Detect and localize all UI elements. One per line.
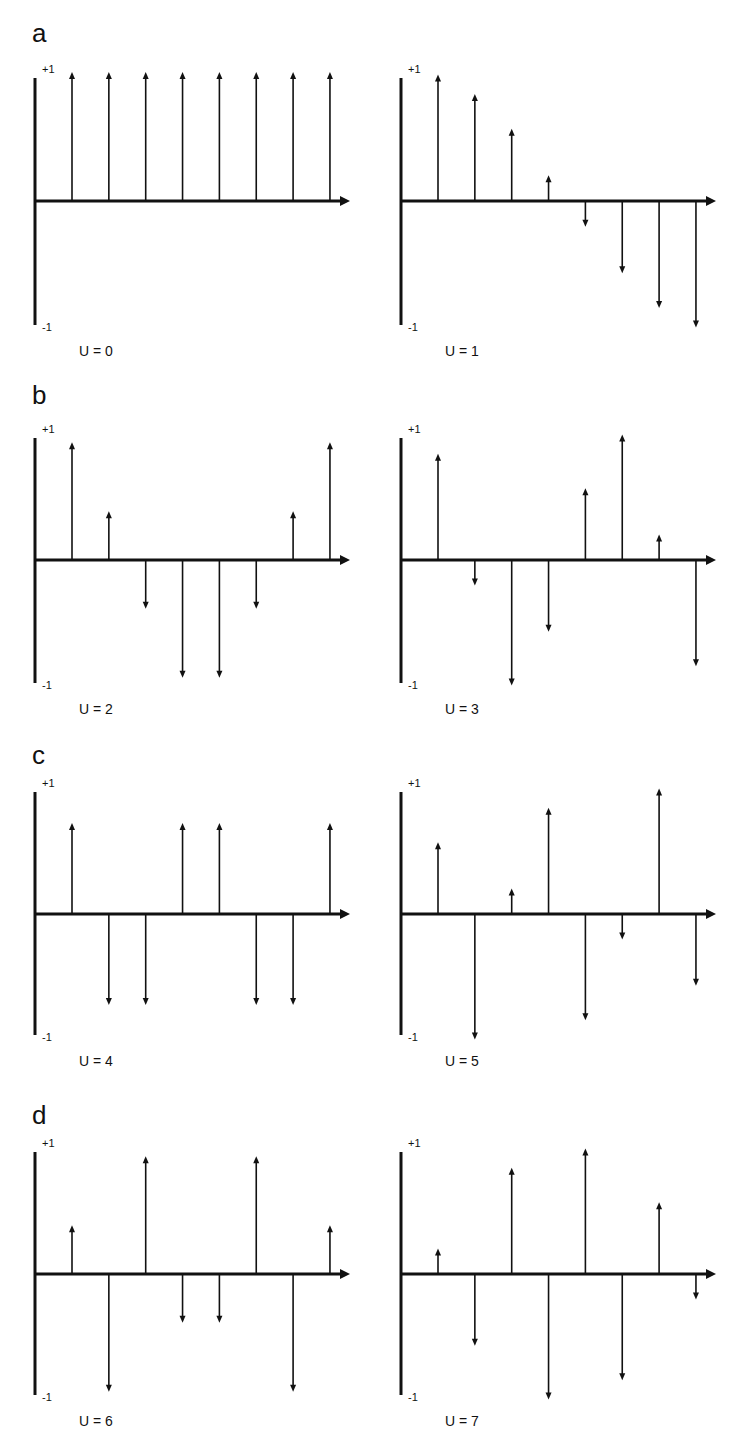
arrow-up-icon xyxy=(143,1156,149,1163)
stem-plot-a-right: +1-1U = 1 xyxy=(370,0,740,360)
stem-plot-d-left: +1-1U = 6 xyxy=(0,1080,370,1440)
arrow-down-icon xyxy=(106,1385,112,1392)
arrow-up-icon xyxy=(327,1225,333,1232)
stem-arrow xyxy=(582,914,588,1020)
y-max-label: +1 xyxy=(408,423,421,435)
stem-arrow xyxy=(582,488,588,560)
stem-arrow xyxy=(290,914,296,1005)
arrow-up-icon xyxy=(180,823,186,830)
figure-row-a: a+1-1U = 0+1-1U = 1 xyxy=(0,0,740,360)
arrow-down-icon xyxy=(472,579,478,586)
arrow-down-icon xyxy=(253,602,259,609)
stem-arrow xyxy=(619,435,625,560)
figure-row-c: c+1-1U = 4+1-1U = 5 xyxy=(0,720,740,1080)
plot-canvas xyxy=(0,720,370,1080)
stem-arrow xyxy=(472,1274,478,1346)
arrow-down-icon xyxy=(693,659,699,666)
y-max-label: +1 xyxy=(42,423,55,435)
arrow-up-icon xyxy=(69,442,75,449)
stem-arrow xyxy=(69,823,75,914)
y-min-label: -1 xyxy=(42,321,52,333)
plot-canvas xyxy=(0,0,370,360)
arrow-down-icon xyxy=(180,1316,186,1323)
stem-arrow xyxy=(546,1274,552,1399)
arrow-down-icon xyxy=(216,671,222,678)
y-min-label: -1 xyxy=(42,679,52,691)
stem-arrow xyxy=(253,560,259,609)
stem-arrow xyxy=(693,1274,699,1300)
arrow-down-icon xyxy=(290,998,296,1005)
arrow-down-icon xyxy=(619,266,625,273)
arrow-up-icon xyxy=(69,823,75,830)
x-axis-arrow-icon xyxy=(340,1269,350,1279)
arrow-up-icon xyxy=(69,1225,75,1232)
y-max-label: +1 xyxy=(42,63,55,75)
x-axis-arrow-icon xyxy=(706,196,716,206)
stem-arrow xyxy=(216,1274,222,1323)
arrow-down-icon xyxy=(693,1293,699,1300)
x-axis-arrow-icon xyxy=(706,909,716,919)
plot-canvas xyxy=(370,720,740,1080)
stem-plot-c-right: +1-1U = 5 xyxy=(370,720,740,1080)
stem-arrow xyxy=(509,1168,515,1274)
arrow-up-icon xyxy=(143,72,149,79)
arrow-down-icon xyxy=(619,1373,625,1380)
x-axis-arrow-icon xyxy=(340,196,350,206)
arrow-down-icon xyxy=(619,933,625,940)
arrow-up-icon xyxy=(435,454,441,461)
arrow-down-icon xyxy=(143,998,149,1005)
arrow-down-icon xyxy=(582,1013,588,1020)
arrow-down-icon xyxy=(582,220,588,227)
plot-canvas xyxy=(370,0,740,360)
y-max-label: +1 xyxy=(42,1137,55,1149)
stem-arrow xyxy=(546,175,552,201)
arrow-up-icon xyxy=(216,72,222,79)
arrow-up-icon xyxy=(180,72,186,79)
y-min-label: -1 xyxy=(42,1391,52,1403)
arrow-down-icon xyxy=(143,602,149,609)
stem-arrow xyxy=(290,1274,296,1392)
arrow-down-icon xyxy=(290,1385,296,1392)
stem-arrow xyxy=(327,442,333,560)
u-index-label: U = 1 xyxy=(445,343,479,359)
arrow-up-icon xyxy=(216,823,222,830)
stem-arrow xyxy=(472,560,478,586)
y-min-label: -1 xyxy=(408,1391,418,1403)
stem-arrow xyxy=(180,72,186,201)
arrow-up-icon xyxy=(656,534,662,541)
stem-arrow xyxy=(472,914,478,1039)
stem-arrow xyxy=(619,201,625,273)
stem-arrow xyxy=(290,511,296,560)
arrow-up-icon xyxy=(472,94,478,101)
stem-plot-b-right: +1-1U = 3 xyxy=(370,360,740,720)
arrow-up-icon xyxy=(327,72,333,79)
arrow-up-icon xyxy=(619,435,625,442)
arrow-down-icon xyxy=(216,1316,222,1323)
stem-arrow xyxy=(656,1202,662,1274)
arrow-down-icon xyxy=(253,998,259,1005)
stem-arrow xyxy=(435,75,441,201)
arrow-up-icon xyxy=(509,888,515,895)
stem-arrow xyxy=(656,534,662,560)
stem-arrow xyxy=(546,560,552,632)
stem-arrow xyxy=(143,560,149,609)
stem-arrow xyxy=(69,1225,75,1274)
y-max-label: +1 xyxy=(408,1137,421,1149)
stem-arrow xyxy=(180,823,186,914)
arrow-up-icon xyxy=(106,511,112,518)
u-index-label: U = 5 xyxy=(445,1053,479,1069)
x-axis-arrow-icon xyxy=(340,909,350,919)
arrow-down-icon xyxy=(546,1392,552,1399)
arrow-up-icon xyxy=(327,823,333,830)
stem-arrow xyxy=(435,842,441,914)
stem-arrow xyxy=(472,94,478,201)
stem-arrow xyxy=(143,1156,149,1274)
arrow-up-icon xyxy=(435,1248,441,1255)
figure-row-d: d+1-1U = 6+1-1U = 7 xyxy=(0,1080,740,1440)
arrow-down-icon xyxy=(106,998,112,1005)
arrow-up-icon xyxy=(656,789,662,796)
arrow-down-icon xyxy=(472,1339,478,1346)
u-index-label: U = 2 xyxy=(79,701,113,717)
stem-arrow xyxy=(509,129,515,201)
stem-arrow xyxy=(290,72,296,201)
